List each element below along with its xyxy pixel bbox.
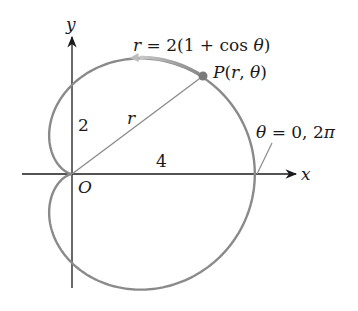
y-intercept-label: 2: [78, 115, 89, 135]
radius-line: [72, 76, 203, 174]
origin-label: O: [78, 177, 92, 197]
point-p-marker: [199, 72, 208, 81]
cardioid-diagram: y x r = 2(1 + cos θ) P(r, θ) 2 r 4 O θ =…: [0, 0, 358, 311]
point-p-label: P(r, θ): [212, 62, 267, 82]
radius-label: r: [127, 108, 136, 128]
angle-label: θ = 0, 2π: [256, 122, 336, 142]
x-intercept-label: 4: [156, 151, 167, 171]
x-axis-label: x: [301, 164, 311, 184]
angle-pointer-line: [257, 143, 272, 174]
equation-label: r = 2(1 + cos θ): [133, 35, 270, 55]
y-axis-label: y: [65, 14, 76, 34]
